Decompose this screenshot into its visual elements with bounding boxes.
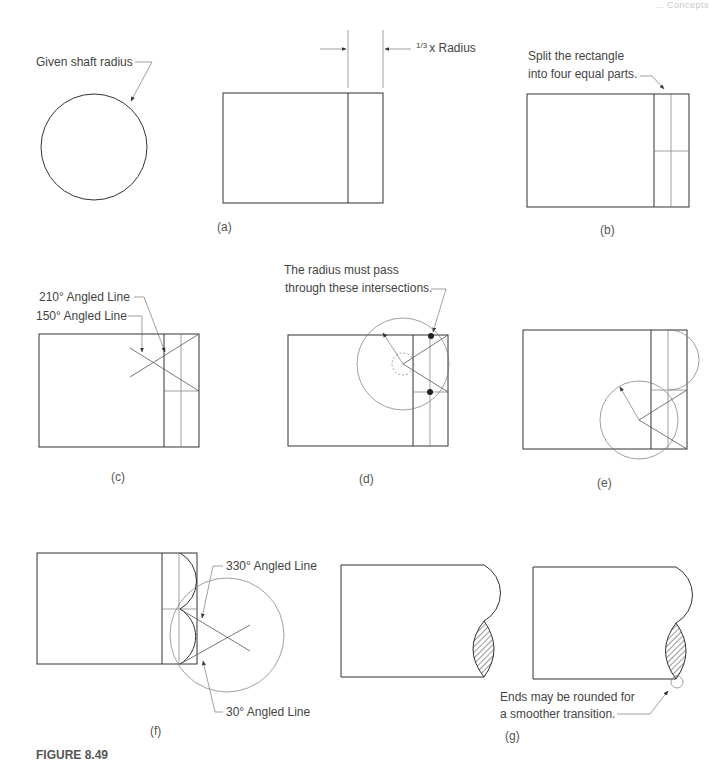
panel-a: 1/3x Radius (a) [217,30,476,234]
hatched-region [666,623,687,679]
shaft-profile [533,567,693,623]
split-note-line2: into four equal parts. [528,67,637,81]
label-150-angled-line: 150° Angled Line [36,309,127,323]
leader-arrow-icon [640,76,664,89]
leader-arrow-icon [203,661,223,712]
hatched-region [473,621,494,677]
shaft-circle [41,94,147,200]
shaft-rectangle [288,335,448,446]
radius-note-line1: The radius must pass [284,263,399,277]
caption-f: (f) [150,724,161,738]
given-shaft-radius-label: Given shaft radius [36,55,133,69]
panel-c: 210° Angled Line 150° Angled Line (c) [36,290,199,484]
intersection-dot [427,389,433,395]
panel-f: 330° Angled Line 30° Angled Line (f) [37,553,317,738]
panel-e: (e) [523,330,699,490]
figure-canvas: Given shaft radius 1/3x Radius (a) Split… [0,0,717,775]
shaft-rectangle [37,553,197,664]
leader-arrow-icon [134,297,165,352]
intersection-dot [428,333,434,339]
leader-arrow-icon [202,566,223,618]
leader-arrow-icon [131,62,152,101]
leader-arrow-icon [431,289,446,332]
split-note-line1: Split the rectangle [528,49,624,63]
caption-d: (d) [359,472,374,486]
rounded-note-line1: Ends may be rounded for [500,690,635,704]
panel-g: Ends may be rounded for a smoother trans… [341,565,693,743]
shaft-rectangle [527,94,689,207]
label-330-angled-line: 330° Angled Line [226,559,317,573]
caption-b: (b) [600,223,615,237]
panel-given-circle: Given shaft radius [36,55,152,200]
caption-e: (e) [597,476,612,490]
rounded-note-line2: a smoother transition. [500,707,615,721]
panel-d: The radius must pass through these inter… [284,263,449,486]
figure-title: FIGURE 8.49 [36,748,108,762]
label-30-angled-line: 30° Angled Line [226,705,311,719]
label-210-angled-line: 210° Angled Line [39,290,130,304]
shaft-profile [341,565,501,621]
shaft-rectangle [223,93,383,203]
caption-c: (c) [111,470,125,484]
dimension-label: 1/3x Radius [416,41,476,55]
caption-g: (g) [505,729,520,743]
radius-note-line2: through these intersections. [285,281,432,295]
shaft-rectangle [523,330,687,449]
shaft-rectangle [39,334,199,447]
panel-b: Split the rectangle into four equal part… [527,49,689,237]
caption-a: (a) [217,220,232,234]
